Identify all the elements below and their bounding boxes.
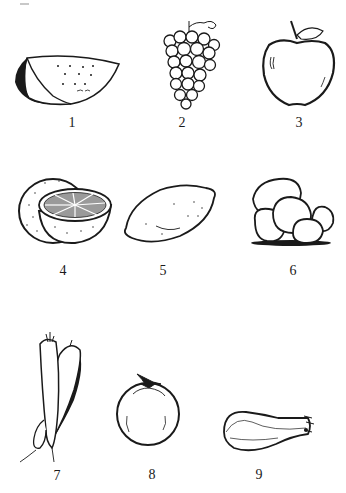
apple-illustration [261, 17, 337, 109]
figure-label-6: 6 [283, 264, 303, 278]
melon-slice-illustration [13, 54, 121, 108]
figure-label-3: 3 [289, 116, 309, 130]
lemon-illustration [122, 182, 218, 244]
potatoes-illustration [249, 177, 335, 247]
squash-illustration [222, 408, 314, 454]
figure-label-2: 2 [172, 116, 192, 130]
tomato-illustration [115, 372, 183, 448]
grapes-illustration [162, 17, 220, 109]
figure-label-8: 8 [142, 468, 162, 482]
figure-label-7: 7 [47, 469, 67, 483]
orange-illustration [15, 175, 113, 247]
figure-label-1: 1 [62, 116, 82, 130]
scan-artifact [20, 3, 29, 5]
figure-label-9: 9 [249, 468, 269, 482]
carrots-illustration [16, 330, 98, 464]
figure-label-4: 4 [53, 264, 73, 278]
figure-label-5: 5 [153, 264, 173, 278]
